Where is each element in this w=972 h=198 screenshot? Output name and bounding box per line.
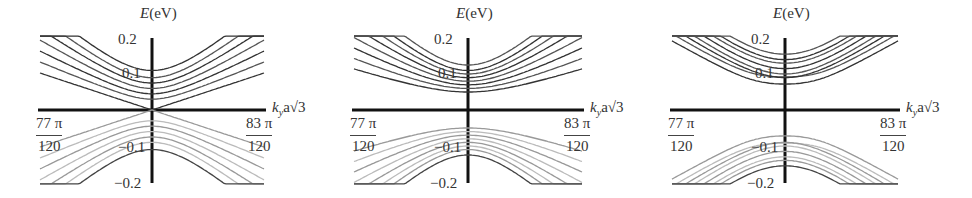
x-tick-right: 83 π120 (880, 116, 906, 154)
y-tick-neg-0.2: −0.2 (430, 176, 457, 191)
y-axis-label: E(eV) (140, 6, 177, 21)
y-tick-neg-0.2: −0.2 (747, 176, 774, 191)
y-tick-0.2: 0.2 (751, 32, 770, 47)
x-axis-label: kya√3 (906, 100, 940, 118)
y-axis-label: E(eV) (456, 6, 493, 21)
band-structure-plots (0, 0, 972, 198)
y-tick-neg-0.1: −0.1 (118, 140, 145, 155)
y-tick-0.2: 0.2 (434, 32, 453, 47)
y-tick-neg-0.1: −0.1 (434, 140, 461, 155)
x-tick-right: 83 π120 (246, 116, 272, 154)
x-axis-label: kya√3 (272, 100, 306, 118)
y-tick-neg-0.1: −0.1 (751, 140, 778, 155)
y-axis-label: E(eV) (773, 6, 810, 21)
y-tick-0.1: 0.1 (755, 66, 774, 81)
x-tick-right: 83 π120 (564, 116, 590, 154)
x-axis-label: kya√3 (590, 100, 624, 118)
y-tick-0.1: 0.1 (438, 66, 457, 81)
x-tick-left: 77 π120 (36, 116, 62, 154)
y-tick-0.1: 0.1 (122, 66, 141, 81)
x-tick-left: 77 π120 (350, 116, 376, 154)
y-tick-0.2: 0.2 (118, 32, 137, 47)
y-tick-neg-0.2: −0.2 (114, 176, 141, 191)
x-tick-left: 77 π120 (668, 116, 694, 154)
